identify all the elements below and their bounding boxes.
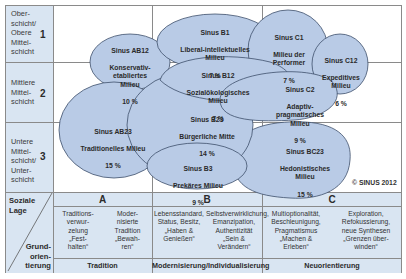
column-letter-a: A [53, 194, 152, 205]
footer-neuorientierung: Neuorientierung [262, 258, 402, 273]
column-letter-b: B [152, 194, 262, 205]
milieu-ab12: Sinus AB12 Konservativ- etabliertes Mili… [100, 38, 160, 115]
footer-tradition: Tradition [53, 258, 152, 273]
description-c1: Multioptionalität, Beschleunigung, Pragm… [262, 210, 330, 251]
description-c2: Exploration, Refokussierung, neue Synthe… [330, 210, 402, 251]
footer-modernisierung: Modernisierung/Individualisierung [152, 258, 262, 273]
milieu-b3: Sinus B3 Prekäres Milieu 9 % [166, 156, 230, 216]
description-a2: Moder- nisierte Tradition „Bewah- ren“ [103, 210, 152, 251]
column-letter-c: C [262, 194, 402, 205]
description-b1: Lebensstandard, Status, Besitz, „Haben &… [152, 210, 206, 243]
description-a1: Traditions- verwur- zelung „Fest- halten… [53, 210, 103, 251]
milieu-ab23: Sinus AB23 Traditionelles Milieu 15 % [70, 119, 156, 179]
copyright: © SINUS 2012 [352, 179, 397, 186]
description-b2: Selbstverwirklichung, Emanzipation, Auth… [206, 210, 262, 251]
